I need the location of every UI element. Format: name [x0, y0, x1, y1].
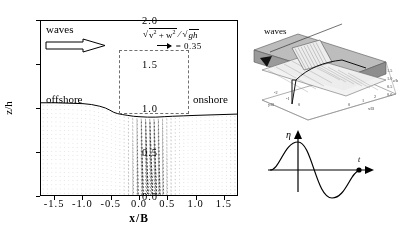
- x-tick-mark: [196, 196, 197, 200]
- legend-exp-1: 2: [153, 29, 156, 35]
- y-tick-mark: [36, 152, 40, 153]
- x-tick-mark: [54, 196, 55, 200]
- t-axis-label: t: [358, 155, 361, 164]
- inset-3d-domain: waves: [246, 22, 400, 130]
- legend-plus: +: [159, 30, 164, 40]
- y-tick-mark: [36, 108, 40, 109]
- inset-x-tick-3: 2: [374, 94, 376, 99]
- onshore-label: onshore: [193, 93, 228, 105]
- x-tick-mark: [224, 196, 225, 200]
- legend-equals: =: [176, 41, 182, 51]
- x-axis-label: x/B: [129, 212, 149, 224]
- legend-divider: ⁄: [179, 29, 181, 39]
- y-tick-mark: [36, 20, 40, 21]
- eta-axis-label: η: [286, 129, 291, 140]
- inset-x-axis-label: x/B: [368, 106, 374, 111]
- inset-y-tick-3: 0: [298, 102, 300, 107]
- legend-scale-row: = 0.35: [157, 41, 202, 51]
- inset-y-tick-1: -2: [274, 90, 278, 95]
- y-tick-label: 1.5: [118, 59, 158, 70]
- inset-z-tick-1: 1.5: [387, 68, 392, 73]
- inset-x-tick-2: 1: [362, 98, 364, 103]
- eta-time-sketch: η t: [262, 128, 396, 230]
- inset-z-axis-label: z/h: [393, 78, 399, 83]
- x-tick-mark: [167, 196, 168, 200]
- waves-direction-arrow: [45, 38, 107, 54]
- x-tick-mark: [111, 196, 112, 200]
- legend-scale-value: 0.35: [184, 41, 202, 51]
- inset-z-tick-3: 0.5: [387, 84, 392, 89]
- legend-gh: gh: [189, 30, 198, 40]
- legend-reference-arrow-icon: [157, 45, 171, 46]
- y-tick-label: 0.5: [118, 147, 158, 158]
- legend-exp-2: 2: [173, 29, 176, 35]
- figure-root: waves offshore onshore √v2 + w2 ⁄ √gh = …: [0, 0, 400, 235]
- inset-x-tick-1: 0: [348, 102, 350, 107]
- y-tick-mark: [36, 64, 40, 65]
- x-tick-mark: [139, 196, 140, 200]
- x-tick-mark: [82, 196, 83, 200]
- offshore-label: offshore: [46, 93, 82, 105]
- y-tick-label: 2.0: [118, 15, 158, 26]
- inset-waves-label: waves: [264, 26, 287, 36]
- y-tick-label: 1.0: [118, 103, 158, 114]
- y-axis-label: z/h: [2, 101, 14, 114]
- y-tick-mark: [36, 196, 40, 197]
- legend-formula: √v2 + w2 ⁄ √gh: [143, 27, 239, 39]
- waves-label: waves: [46, 23, 74, 35]
- inset-y-tick-2: -1: [286, 96, 290, 101]
- phase-marker-dot: [356, 167, 361, 172]
